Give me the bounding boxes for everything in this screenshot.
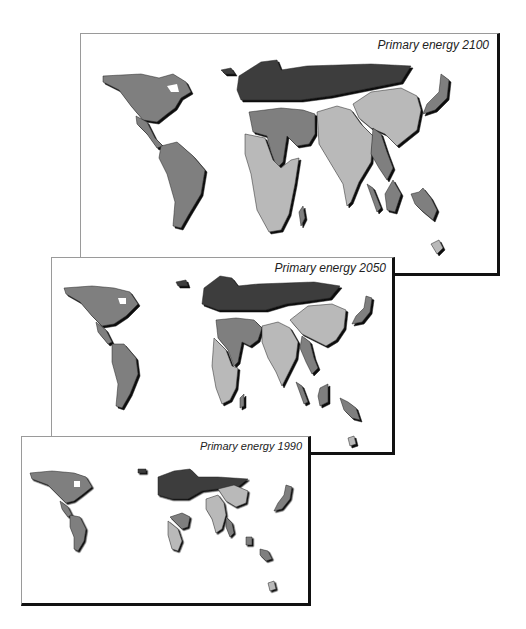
region-oceania (268, 581, 276, 591)
region-southeast-asia (226, 517, 234, 537)
region-south-asia (262, 322, 298, 386)
region-south-america (112, 344, 138, 408)
map-panel-2100: Primary energy 2100 (80, 33, 500, 276)
region-oceania (348, 436, 356, 446)
region-central-america (60, 501, 72, 517)
region-north-america (30, 471, 92, 503)
region-south-asia (206, 495, 226, 533)
region-japan (423, 74, 449, 114)
map-panel-1990: Primary energy 1990 (21, 436, 311, 606)
region-south-america (70, 515, 86, 551)
world-map-1990 (22, 437, 309, 604)
region-oceania (431, 240, 443, 254)
world-map-2050 (52, 258, 393, 453)
region-north-america (103, 74, 191, 122)
map-panel-2050: Primary energy 2050 (51, 257, 395, 455)
region-north-america (64, 286, 138, 326)
region-southeast-asia (300, 336, 318, 374)
region-cpa (290, 304, 346, 346)
region-japan (352, 296, 372, 324)
region-japan (274, 485, 292, 511)
region-south-america (159, 142, 205, 228)
world-map-2100 (81, 34, 498, 274)
